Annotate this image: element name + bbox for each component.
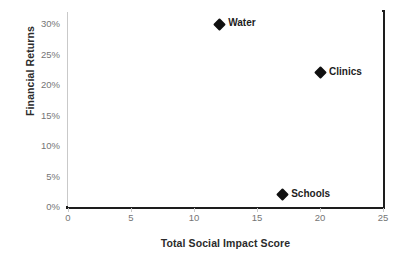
y-tick-label: 5% <box>0 171 60 182</box>
y-tick-label: 15% <box>0 110 60 121</box>
data-point-label: Schools <box>291 188 330 199</box>
scatter-chart-figure: Financial Returns Total Social Impact Sc… <box>0 0 400 263</box>
diamond-marker-icon <box>314 67 327 80</box>
x-tick-label: 10 <box>174 212 214 223</box>
diamond-marker-icon <box>276 188 289 201</box>
x-tick-label: 15 <box>237 212 277 223</box>
data-point-label: Water <box>228 17 255 28</box>
x-tick-label: 0 <box>48 212 88 223</box>
plot-area: WaterClinicsSchools <box>68 12 383 207</box>
x-tick-label: 25 <box>363 212 400 223</box>
y-tick-label: 25% <box>0 49 60 60</box>
x-tick-label: 20 <box>300 212 340 223</box>
diamond-marker-icon <box>213 18 226 31</box>
data-point-label: Clinics <box>329 66 362 77</box>
y-tick-label: 10% <box>0 140 60 151</box>
y-tick-label: 20% <box>0 79 60 90</box>
x-tick-label: 5 <box>111 212 151 223</box>
y-tick-label: 0% <box>0 201 60 212</box>
x-axis-title: Total Social Impact Score <box>68 237 383 249</box>
y-tick-label: 30% <box>0 18 60 29</box>
